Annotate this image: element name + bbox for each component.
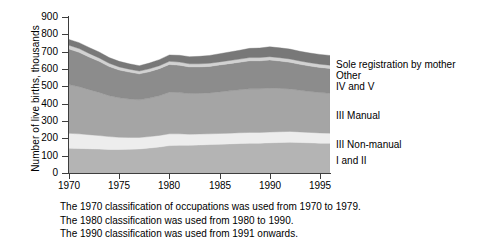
x-tick-label: 1990 (250, 180, 290, 191)
legend-label-iii-non-manual: III Non-manual (336, 139, 402, 150)
x-tick-label: 1985 (200, 180, 240, 191)
y-tick-mark (62, 34, 68, 35)
footnotes: The 1970 classification of occupations w… (60, 200, 480, 241)
x-tick-mark (220, 174, 221, 179)
legend-label-other: Other (336, 70, 361, 81)
legend-label-sole-registration-by-mother: Sole registration by mother (336, 59, 456, 70)
legend-label-iv-and-v: IV and V (336, 81, 374, 92)
x-tick-mark (169, 174, 170, 179)
y-tick-label: 500 (0, 81, 58, 91)
y-axis-line (68, 16, 69, 174)
y-tick-mark (62, 121, 68, 122)
y-tick-label: 100 (0, 151, 58, 161)
y-tick-mark (62, 17, 68, 18)
y-tick-mark (62, 86, 68, 87)
y-tick-label: 800 (0, 29, 58, 39)
y-tick-mark (62, 69, 68, 70)
y-tick-label: 300 (0, 116, 58, 126)
x-tick-label: 1975 (99, 180, 139, 191)
plot-area (69, 17, 330, 173)
x-tick-label: 1995 (300, 180, 340, 191)
stacked-area-svg (69, 17, 330, 173)
x-tick-mark (320, 174, 321, 179)
x-tick-label: 1970 (49, 180, 89, 191)
y-tick-label: 200 (0, 133, 58, 143)
y-tick-mark (62, 156, 68, 157)
legend-label-i-and-ii: I and II (336, 155, 367, 166)
x-tick-mark (69, 174, 70, 179)
y-tick-mark (62, 52, 68, 53)
y-tick-mark (62, 173, 68, 174)
legend-label-iii-manual: III Manual (336, 110, 380, 121)
x-tick-label: 1980 (149, 180, 189, 191)
y-tick-label: 900 (0, 12, 58, 22)
x-tick-mark (270, 174, 271, 179)
y-tick-mark (62, 104, 68, 105)
footnote: The 1980 classification was used from 19… (60, 214, 480, 228)
x-axis-line (68, 173, 331, 174)
y-tick-label: 0 (0, 168, 58, 178)
figure: Number of live births, thousands 0100200… (0, 0, 486, 250)
y-tick-label: 700 (0, 47, 58, 57)
x-tick-mark (119, 174, 120, 179)
y-tick-mark (62, 138, 68, 139)
y-tick-label: 600 (0, 64, 58, 74)
y-tick-label: 400 (0, 99, 58, 109)
footnote: The 1970 classification of occupations w… (60, 200, 480, 214)
footnote: The 1990 classification was used from 19… (60, 227, 480, 241)
